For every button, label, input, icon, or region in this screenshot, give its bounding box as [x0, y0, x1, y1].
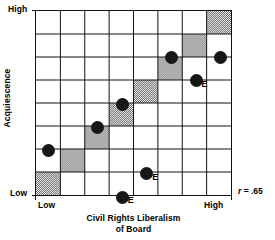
scatter-plot-area: EEE: [35, 10, 232, 196]
shaded-cell: [60, 149, 84, 172]
x-axis-tick-low: Low: [38, 200, 55, 210]
x-axis-tick-high: High: [204, 200, 223, 210]
y-axis-tick-low: Low: [10, 188, 27, 198]
x-axis-caption-line2: of Board: [35, 224, 232, 235]
shaded-cell: [207, 11, 231, 34]
x-axis-cap-left: [35, 196, 36, 200]
shaded-cell: [134, 80, 158, 103]
shaded-cell: [36, 172, 60, 195]
correlation-symbol: r: [238, 186, 241, 196]
x-axis-cap-right: [231, 196, 232, 200]
y-axis-title: Acquiescence: [0, 0, 14, 195]
x-axis-caption-line1: Civil Rights Liberalism: [35, 213, 232, 224]
data-point[interactable]: [91, 121, 104, 134]
data-point[interactable]: [165, 51, 178, 64]
shaded-cell: [182, 34, 206, 57]
data-point-flag: E: [128, 196, 134, 205]
grid-svg: [36, 11, 231, 195]
y-axis-tick-high: High: [8, 4, 27, 14]
correlation-annotation: r = .65: [238, 186, 263, 196]
x-axis-caption: Civil Rights Liberalism of Board: [35, 213, 232, 235]
correlation-value: = .65: [244, 186, 263, 196]
data-point[interactable]: [42, 144, 55, 157]
data-point-flag: E: [152, 173, 158, 182]
y-axis-title-text: Acquiescence: [2, 68, 12, 127]
data-point[interactable]: [116, 98, 129, 111]
data-point-flag: E: [202, 80, 208, 89]
